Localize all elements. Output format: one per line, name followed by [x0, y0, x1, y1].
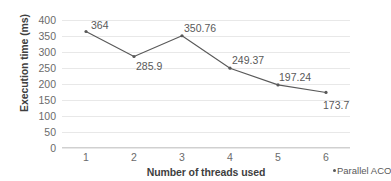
series-line [86, 32, 326, 93]
data-label: 249.37 [232, 55, 264, 66]
series-parallel-aco [62, 20, 350, 148]
data-label: 364 [91, 20, 109, 31]
legend-item-label: Parallel ACO [337, 166, 391, 176]
x-axis-tick-label: 4 [215, 152, 245, 163]
chart-legend: Parallel ACO [333, 166, 391, 176]
data-label: 173.7 [323, 100, 349, 111]
chart-container: Execution time (ms) 40035030025020015010… [0, 0, 391, 181]
x-axis-tick-label: 1 [71, 152, 101, 163]
y-axis-tick-label: 0 [22, 143, 56, 154]
y-axis-tick-label: 150 [22, 95, 56, 106]
data-point-marker [324, 91, 327, 94]
x-axis-tick-label: 2 [119, 152, 149, 163]
x-axis-tick-label: 6 [311, 152, 341, 163]
gridline [62, 148, 350, 149]
y-axis-tick-label: 200 [22, 79, 56, 90]
data-point-marker [276, 83, 279, 86]
data-point-marker [84, 30, 87, 33]
data-label: 285.9 [136, 61, 162, 72]
y-axis-tick-label: 250 [22, 63, 56, 74]
data-label: 350.76 [184, 23, 216, 34]
x-axis-title: Number of threads used [62, 166, 350, 178]
data-point-marker [180, 34, 183, 37]
x-axis-tick-labels: 123456 [62, 152, 350, 166]
y-axis-tick-label: 100 [22, 111, 56, 122]
y-axis-tick-labels: 400350300250200150100500 [22, 0, 56, 181]
x-axis-tick-label: 5 [263, 152, 293, 163]
y-axis-tick-label: 350 [22, 31, 56, 42]
legend-marker-icon [333, 169, 336, 172]
data-point-marker [132, 55, 135, 58]
y-axis-tick-label: 50 [22, 127, 56, 138]
y-axis-tick-label: 300 [22, 47, 56, 58]
x-axis-tick-label: 3 [167, 152, 197, 163]
y-axis-tick-label: 400 [22, 15, 56, 26]
data-label: 197.24 [279, 72, 311, 83]
data-point-marker [228, 67, 231, 70]
plot-area: 364285.9350.76249.37197.24173.7 [62, 20, 350, 148]
